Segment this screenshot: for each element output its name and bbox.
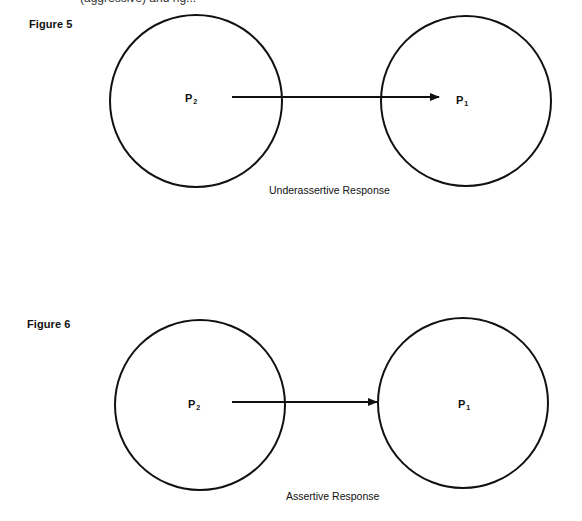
figure-5-node-p2: P2 xyxy=(185,92,197,105)
node-subscript: 2 xyxy=(193,98,197,105)
diagram-canvas xyxy=(0,0,582,521)
node-letter: P xyxy=(188,398,195,410)
node-subscript: 1 xyxy=(464,100,468,107)
figure-6-label: Figure 6 xyxy=(27,318,71,330)
node-subscript: 1 xyxy=(466,404,470,411)
figure-6-node-p1: P1 xyxy=(458,398,470,411)
node-letter: P xyxy=(458,398,465,410)
node-letter: P xyxy=(185,92,192,104)
node-letter: P xyxy=(456,94,463,106)
figure-5-node-p1: P1 xyxy=(456,94,468,107)
figure-6-caption: Assertive Response xyxy=(286,490,379,502)
figure-6-node-p2: P2 xyxy=(188,398,200,411)
node-subscript: 2 xyxy=(196,404,200,411)
figure-5-caption: Underassertive Response xyxy=(269,184,390,196)
